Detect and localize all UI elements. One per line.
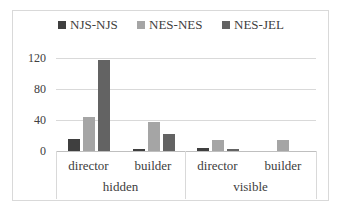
x-label-builder: builder [250,159,316,173]
bar-njs-njs [68,139,80,151]
x-group-label-hidden: hidden [56,180,185,194]
bar-nes-jel [98,60,110,151]
x-label-director: director [56,159,121,173]
bar-nes-nes [277,140,289,151]
y-tick-label: 0 [22,145,46,157]
x-group-label-visible: visible [185,180,316,194]
y-tick-label: 40 [22,114,46,126]
x-axis-line [56,151,316,152]
bar-nes-nes [83,117,95,151]
bar-nes-nes [148,122,160,151]
bar-nes-jel [163,134,175,151]
bar-nes-jel [227,149,239,151]
axis-separator [316,151,317,199]
bar-njs-njs [197,148,209,151]
x-label-builder: builder [121,159,185,173]
plot-area: 120 80 40 0 director builder director bu… [0,0,339,213]
gridline-80 [56,89,316,90]
gridline-120 [56,58,316,59]
gridline-40 [56,120,316,121]
x-label-director: director [185,159,250,173]
bar-njs-njs [133,149,145,151]
y-tick-label: 120 [22,52,46,64]
y-tick-label: 80 [22,83,46,95]
bar-nes-nes [212,140,224,151]
